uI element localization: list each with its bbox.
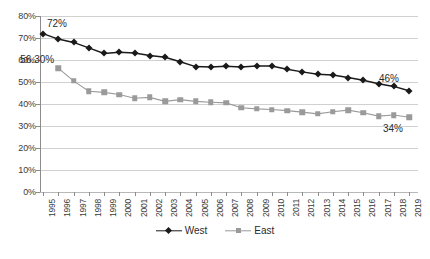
x-tick-mark: [211, 192, 212, 196]
x-tick-mark: [363, 192, 364, 196]
x-tick-mark: [196, 192, 197, 196]
x-tick-label: 2019: [413, 199, 423, 217]
x-tick-label: 1998: [93, 199, 103, 217]
x-tick-mark: [257, 192, 258, 196]
x-tick-label: 2013: [322, 199, 332, 217]
x-tick-mark: [348, 192, 349, 196]
west-marker-icon: [156, 226, 182, 236]
y-tick-label: 30%: [18, 121, 36, 131]
x-tick-mark: [409, 192, 410, 196]
x-tick-label: 2008: [245, 199, 255, 217]
y-tick-label: 50%: [18, 77, 36, 87]
east-marker-icon: [225, 226, 251, 236]
x-tick-mark: [226, 192, 227, 196]
x-tick-label: 2001: [139, 199, 149, 217]
x-tick-label: 2014: [337, 199, 347, 217]
data-label: 34%: [383, 123, 403, 134]
data-labels: 72%56.30%46%34%: [40, 16, 418, 192]
legend-label-west: West: [185, 225, 208, 236]
x-tick-mark: [58, 192, 59, 196]
x-tick-label: 1995: [47, 199, 57, 217]
x-tick-label: 2009: [261, 199, 271, 217]
x-tick-mark: [150, 192, 151, 196]
x-tick-label: 2011: [291, 199, 301, 216]
data-label: 72%: [47, 18, 67, 29]
x-tick-label: 2012: [306, 199, 316, 217]
x-tick-label: 2004: [184, 199, 194, 217]
legend-label-east: East: [254, 225, 274, 236]
legend-item-west[interactable]: West: [156, 225, 208, 236]
line-chart: 0%10%20%30%40%50%60%70%80% 1995199619971…: [0, 0, 430, 259]
x-tick-label: 2007: [230, 199, 240, 217]
x-tick-label: 2017: [383, 199, 393, 217]
x-tick-mark: [89, 192, 90, 196]
x-tick-mark: [135, 192, 136, 196]
data-label: 56.30%: [20, 54, 54, 65]
x-tick-mark: [333, 192, 334, 196]
x-tick-mark: [287, 192, 288, 196]
gridline: [40, 192, 418, 193]
x-tick-mark: [165, 192, 166, 196]
x-tick-label: 2015: [352, 199, 362, 217]
y-tick-label: 40%: [18, 99, 36, 109]
x-tick-mark: [241, 192, 242, 196]
x-tick-label: 2005: [200, 199, 210, 217]
x-tick-label: 1999: [108, 199, 118, 217]
x-tick-label: 2002: [154, 199, 164, 217]
x-tick-label: 1997: [78, 199, 88, 217]
x-tick-mark: [394, 192, 395, 196]
x-tick-mark: [180, 192, 181, 196]
x-tick-label: 2018: [398, 199, 408, 217]
x-tick-mark: [43, 192, 44, 196]
chart-legend: West East: [0, 225, 430, 236]
y-tick-label: 0%: [23, 187, 36, 197]
plot-area: 1995199619971998199920002001200220032004…: [40, 16, 418, 192]
x-tick-label: 2006: [215, 199, 225, 217]
y-tick-label: 70%: [18, 33, 36, 43]
x-tick-label: 2010: [276, 199, 286, 217]
y-tick-label: 80%: [18, 11, 36, 21]
x-tick-mark: [272, 192, 273, 196]
x-tick-label: 2000: [123, 199, 133, 217]
x-tick-label: 2003: [169, 199, 179, 217]
y-tick-label: 20%: [18, 143, 36, 153]
x-tick-label: 1996: [62, 199, 72, 217]
x-tick-mark: [318, 192, 319, 196]
legend-item-east[interactable]: East: [225, 225, 274, 236]
x-tick-mark: [119, 192, 120, 196]
x-tick-mark: [302, 192, 303, 196]
data-label: 46%: [379, 73, 399, 84]
y-tick-label: 10%: [18, 165, 36, 175]
x-tick-mark: [74, 192, 75, 196]
x-tick-mark: [104, 192, 105, 196]
x-tick-label: 2016: [367, 199, 377, 217]
x-tick-mark: [379, 192, 380, 196]
